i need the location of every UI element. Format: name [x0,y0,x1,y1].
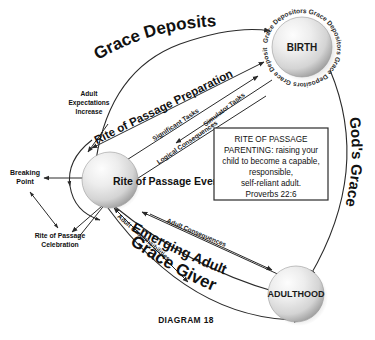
breaking-point-line1: Breaking [10,169,40,177]
label-simulator-tasks-text: Simulator Tasks [202,91,246,128]
diagram-canvas: BIRTH Grace Depositors Grace Depositors … [0,0,375,340]
textbox-line-5: self-reliant adult. [241,179,301,188]
rite-of-passage-parenting-textbox: RITE OF PASSAGE PARENTING: raising your … [214,128,328,200]
adulthood-label: ADULTHOOD [268,289,325,299]
breaking-point-line2: Point [16,178,34,185]
label-rite-of-passage-celebration: Rite of Passage Celebration [35,232,86,248]
label-grace-deposits: Grace Deposits [90,11,216,63]
diagram-caption: DIAGRAM 18 [158,315,214,325]
adult-expectations-line1: Adult [81,90,99,97]
diagram-svg: BIRTH Grace Depositors Grace Depositors … [0,0,375,340]
edge-breaking-to-celebration [30,192,58,228]
label-simulator-tasks: Simulator Tasks [202,91,246,128]
node-adulthood[interactable]: ADULTHOOD [268,266,325,322]
label-grace-deposits-text: Grace Deposits [90,11,216,63]
label-adult-expectations-increase: Adult Expectations Increase [68,90,109,115]
textbox-line-6: Proverbs 22:6 [246,190,297,199]
rop-celebration-line2: Celebration [41,241,78,248]
label-logical-consequences-text: Logical Consequences [155,119,219,166]
adult-expectations-line2: Expectations [68,99,109,107]
birth-label: BIRTH [287,42,318,53]
label-breaking-point: Breaking Point [10,169,40,185]
adult-expectations-line3: Increase [76,108,103,115]
textbox-line-1: RITE OF PASSAGE [234,135,308,144]
rop-celebration-line1: Rite of Passage [35,232,86,240]
label-logical-consequences: Logical Consequences [155,119,219,166]
textbox-line-2: PARENTING: raising your [224,146,318,155]
rite-of-passage-event-label: Rite of Passage Event [113,175,223,187]
textbox-line-3: child to become a capable, [222,157,319,166]
textbox-line-4: responsible, [249,168,293,177]
